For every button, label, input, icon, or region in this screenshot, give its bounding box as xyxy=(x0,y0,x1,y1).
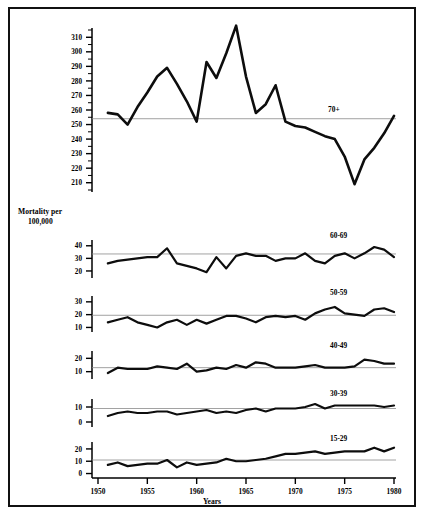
panel-50-59: 102030 50-59 xyxy=(18,290,408,338)
panel-60-69: 203040 60-69 xyxy=(18,232,408,284)
y-tick-label-15-29-10: 10 xyxy=(75,458,83,466)
figure-root: Mortality by age group and year 21022023… xyxy=(0,0,424,519)
y-tick-label-70+-230: 230 xyxy=(71,150,82,158)
y-ticks-40-49 xyxy=(86,358,92,371)
y-ticks-60-69 xyxy=(86,246,92,271)
panel-label-70-plus: 70+ xyxy=(328,105,340,114)
y-tick-label-50-59-30: 30 xyxy=(75,298,83,306)
y-tick-labels-30-39: 010 xyxy=(75,404,83,427)
panel-50-59-svg: 102030 50-59 xyxy=(18,290,408,338)
y-tick-labels-40-49: 1020 xyxy=(75,355,83,376)
y-tick-label-70+-260: 260 xyxy=(71,107,82,115)
y-tick-label-60-69-40: 40 xyxy=(75,242,83,250)
x-ticks xyxy=(98,478,394,484)
x-tick-label-1980: 1980 xyxy=(387,487,402,496)
x-tick-label-1975: 1975 xyxy=(337,487,352,496)
panel-30-39-svg: 010 30-39 xyxy=(18,391,408,435)
series-line-50-59 xyxy=(108,307,394,327)
x-tick-label-1970: 1970 xyxy=(288,487,303,496)
y-tick-label-70+-290: 290 xyxy=(71,63,82,71)
x-axis-title: Years xyxy=(0,497,424,506)
series-line-40-49 xyxy=(108,360,394,373)
y-tick-label-50-59-10: 10 xyxy=(75,324,83,332)
y-axis-title-line1: Mortality per xyxy=(18,207,62,216)
y-tick-label-70+-280: 280 xyxy=(71,78,82,86)
y-ticks-70-plus xyxy=(86,30,92,190)
x-tick-label-1965: 1965 xyxy=(239,487,254,496)
x-tick-label-1960: 1960 xyxy=(189,487,204,496)
y-tick-label-15-29-20: 20 xyxy=(75,446,83,454)
y-ticks-15-29 xyxy=(86,449,92,474)
y-tick-labels-15-29: 01020 xyxy=(75,446,83,479)
y-tick-label-30-39-0: 0 xyxy=(78,419,82,427)
y-tick-label-40-49-20: 20 xyxy=(75,355,83,363)
y-tick-label-30-39-10: 10 xyxy=(75,404,83,412)
y-tick-label-60-69-20: 20 xyxy=(75,268,83,276)
panel-15-29: 01020 15-29 1950195519601965197019751980 xyxy=(18,436,408,500)
series-line-70-plus xyxy=(108,26,394,185)
y-tick-label-70+-220: 220 xyxy=(71,165,82,173)
y-ticks-50-59 xyxy=(86,302,92,328)
y-tick-label-70+-310: 310 xyxy=(71,34,82,42)
y-axis-title: Mortality per 100,000 xyxy=(18,207,62,226)
y-axis-title-line2: 100,000 xyxy=(18,217,62,227)
panel-label-50-59: 50-59 xyxy=(330,288,348,297)
panel-15-29-svg: 01020 15-29 1950195519601965197019751980 xyxy=(18,436,408,500)
panel-60-69-svg: 203040 60-69 xyxy=(18,232,408,284)
series-line-60-69 xyxy=(108,247,394,272)
panel-label-40-49: 40-49 xyxy=(330,341,348,350)
y-tick-label-40-49-10: 10 xyxy=(75,368,83,376)
y-tick-labels-70-plus: 210220230240250260270280290300310 xyxy=(71,34,82,187)
x-tick-label-1955: 1955 xyxy=(140,487,155,496)
panel-label-15-29: 15-29 xyxy=(330,434,348,443)
panel-40-49: 1020 40-49 xyxy=(18,343,408,387)
y-tick-label-15-29-0: 0 xyxy=(78,470,82,478)
panel-70-plus: 210220230240250260270280290300310 70+ xyxy=(18,14,408,204)
series-line-15-29 xyxy=(108,448,394,468)
panel-40-49-svg: 1020 40-49 xyxy=(18,343,408,387)
series-line-30-39 xyxy=(108,404,394,416)
y-tick-label-70+-300: 300 xyxy=(71,48,82,56)
x-tick-labels: 1950195519601965197019751980 xyxy=(91,487,402,496)
x-tick-label-1950: 1950 xyxy=(91,487,106,496)
y-tick-labels-50-59: 102030 xyxy=(75,298,83,332)
y-ticks-30-39 xyxy=(86,407,92,422)
y-tick-label-70+-270: 270 xyxy=(71,92,82,100)
y-tick-label-70+-210: 210 xyxy=(71,179,82,187)
panel-70-plus-svg: 210220230240250260270280290300310 70+ xyxy=(18,14,408,204)
y-tick-label-60-69-30: 30 xyxy=(75,255,83,263)
y-tick-label-70+-240: 240 xyxy=(71,136,82,144)
y-tick-label-70+-250: 250 xyxy=(71,121,82,129)
panel-label-60-69: 60-69 xyxy=(330,231,348,240)
panel-30-39: 010 30-39 xyxy=(18,391,408,435)
panel-label-30-39: 30-39 xyxy=(330,389,348,398)
y-tick-labels-60-69: 203040 xyxy=(75,242,83,275)
y-tick-label-50-59-20: 20 xyxy=(75,311,83,319)
